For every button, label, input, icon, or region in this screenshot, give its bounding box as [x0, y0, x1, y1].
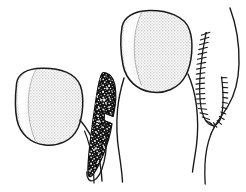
- suture-knot-end: [221, 77, 223, 79]
- figure-root: Two-panel surgical line illustration Den…: [0, 0, 246, 192]
- suture-knot-top: [205, 32, 207, 34]
- illustration-canvas: [0, 0, 246, 192]
